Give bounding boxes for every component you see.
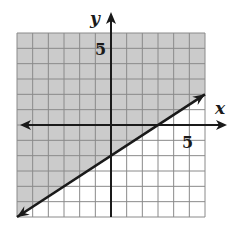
y-tick-label-5: 5 <box>95 40 106 59</box>
inequality-graph: y 5 x 5 <box>0 0 238 230</box>
x-tick-label-5: 5 <box>182 133 193 152</box>
y-axis-label: y <box>89 8 101 28</box>
x-axis-label: x <box>214 98 226 118</box>
